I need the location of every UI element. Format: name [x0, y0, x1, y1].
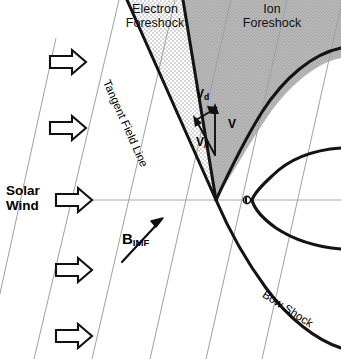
solar-wind-arrow [50, 50, 86, 74]
electron-foreshock-label-line1: Electron [105, 3, 205, 17]
solar-wind-arrow [50, 116, 86, 140]
ion-foreshock-label-line1: Ion [222, 3, 322, 17]
v-drift-symbol: V [196, 87, 204, 101]
ion-foreshock-label-line2: Foreshock [222, 17, 322, 31]
solar-wind-arrow [56, 258, 92, 282]
solar-wind-arrows [50, 50, 92, 348]
v-drift-label: Vd [196, 87, 209, 102]
b-imf-symbol: B [122, 230, 133, 247]
v-drift-subscript: d [204, 92, 209, 102]
electron-foreshock-label-line2: Foreshock [105, 17, 205, 31]
solar-wind-label: Solar Wind [6, 184, 40, 213]
b-imf-subscript: IMF [133, 237, 150, 248]
v-parallel-label: V// [196, 135, 209, 150]
v-total-label: V [228, 117, 236, 131]
ion-foreshock-label: Ion Foreshock [222, 3, 322, 30]
solar-wind-label-line2: Wind [6, 199, 40, 214]
solar-wind-arrow [56, 324, 92, 348]
b-imf-label: BIMF [122, 230, 150, 248]
v-parallel-symbol: V [196, 135, 204, 149]
electron-foreshock-label: Electron Foreshock [105, 3, 205, 30]
figure-canvas: Electron Foreshock Ion Foreshock Solar W… [0, 0, 341, 359]
solar-wind-label-line1: Solar [6, 184, 40, 199]
v-parallel-subscript: // [204, 140, 209, 150]
v-total-symbol: V [228, 117, 236, 131]
magnetopause-curve [252, 148, 341, 249]
